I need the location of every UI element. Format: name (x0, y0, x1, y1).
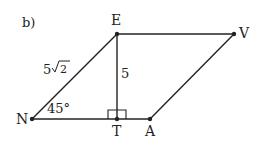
label-T: T (112, 123, 122, 139)
svg-text:2: 2 (60, 63, 67, 76)
parallelogram-diagram: b) E V N T A 5 2 5 45° (0, 0, 267, 143)
label-A: A (144, 123, 156, 139)
label-N: N (16, 111, 28, 127)
point-T (115, 117, 119, 121)
side-VA (150, 34, 234, 119)
point-V (232, 32, 236, 36)
length-label-NE: 5 2 (43, 61, 70, 77)
point-N (30, 117, 34, 121)
length-label-ET: 5 (121, 66, 129, 81)
point-E (115, 32, 119, 36)
angle-label-N: 45° (47, 101, 70, 116)
label-V: V (238, 25, 250, 41)
label-E: E (111, 12, 121, 28)
point-A (148, 117, 152, 121)
figure-label: b) (22, 15, 35, 30)
svg-text:5: 5 (43, 62, 51, 77)
